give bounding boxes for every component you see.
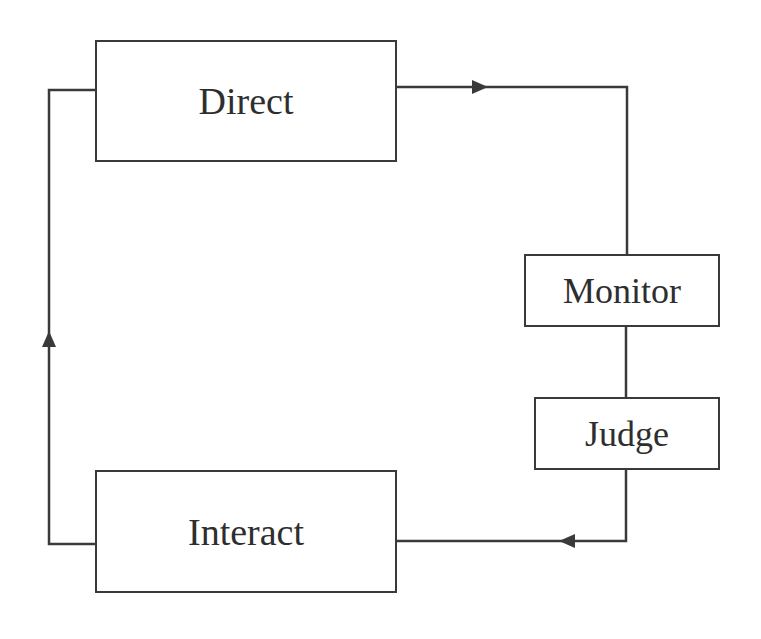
node-interact: Interact (95, 470, 397, 593)
edge-direct-monitor (396, 87, 627, 254)
node-direct: Direct (95, 40, 397, 162)
arrow-left-icon (559, 534, 575, 548)
edge-judge-interact (396, 469, 626, 541)
node-label: Monitor (563, 270, 681, 312)
node-label: Judge (585, 413, 669, 455)
arrow-right-icon (472, 80, 488, 94)
node-monitor: Monitor (524, 254, 720, 327)
node-label: Interact (188, 510, 304, 554)
node-judge: Judge (534, 397, 720, 470)
node-label: Direct (199, 79, 294, 123)
arrow-up-icon (42, 331, 56, 347)
edge-interact-direct (49, 90, 95, 544)
